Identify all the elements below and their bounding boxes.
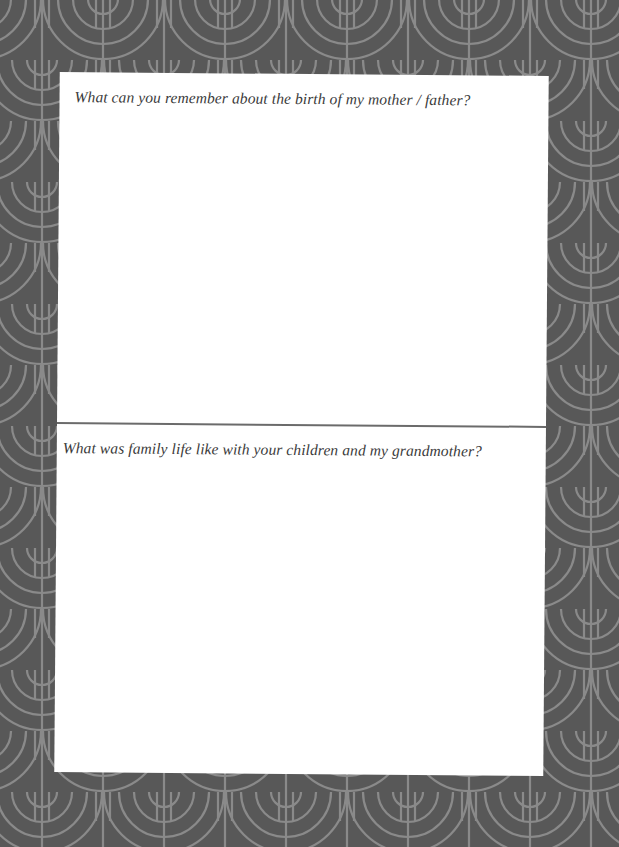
question-text: What was family life like with your chil… bbox=[63, 439, 482, 460]
prompt-section-2: What was family life like with your chil… bbox=[54, 424, 546, 776]
prompt-section-1: What can you remember about the birth of… bbox=[57, 72, 549, 426]
question-card: What can you remember about the birth of… bbox=[54, 72, 548, 776]
journal-page: What can you remember about the birth of… bbox=[0, 0, 619, 847]
answer-writing-area[interactable] bbox=[54, 464, 545, 776]
question-text: What can you remember about the birth of… bbox=[74, 88, 470, 109]
answer-writing-area[interactable] bbox=[57, 112, 548, 426]
